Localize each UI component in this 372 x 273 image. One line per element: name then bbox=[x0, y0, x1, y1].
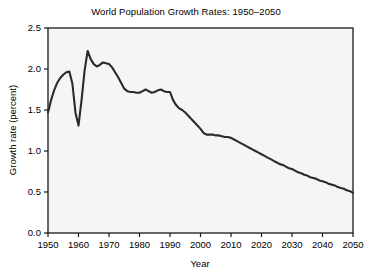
x-tick-label: 1970 bbox=[98, 239, 119, 250]
y-tick-label: 1.0 bbox=[28, 145, 41, 156]
y-tick-label: 1.5 bbox=[28, 104, 41, 115]
y-axis-title: Growth rate (percent) bbox=[7, 85, 18, 175]
x-tick-label: 2010 bbox=[220, 239, 241, 250]
chart-figure: World Population Growth Rates: 1950–2050… bbox=[0, 0, 372, 273]
y-tick-label: 0.5 bbox=[28, 186, 41, 197]
y-axis-tick-labels: 0.00.51.01.52.02.5 bbox=[28, 22, 41, 238]
y-tick-label: 0.0 bbox=[28, 227, 41, 238]
line-chart-plot: 0.00.51.01.52.02.5 195019601970198019902… bbox=[0, 0, 372, 273]
x-tick-label: 1950 bbox=[37, 239, 58, 250]
y-tick-label: 2.0 bbox=[28, 63, 41, 74]
x-tick-label: 2040 bbox=[312, 239, 333, 250]
x-tick-label: 2050 bbox=[342, 239, 363, 250]
x-tick-label: 2020 bbox=[251, 239, 272, 250]
x-tick-label: 2000 bbox=[190, 239, 211, 250]
x-tick-label: 1990 bbox=[159, 239, 180, 250]
x-axis-title: Year bbox=[190, 258, 209, 269]
x-tick-label: 1980 bbox=[129, 239, 150, 250]
x-axis-tick-labels: 1950196019701980199020002010202020302040… bbox=[37, 239, 363, 250]
y-tick-label: 2.5 bbox=[28, 22, 41, 33]
x-tick-label: 1960 bbox=[68, 239, 89, 250]
x-tick-label: 2030 bbox=[281, 239, 302, 250]
